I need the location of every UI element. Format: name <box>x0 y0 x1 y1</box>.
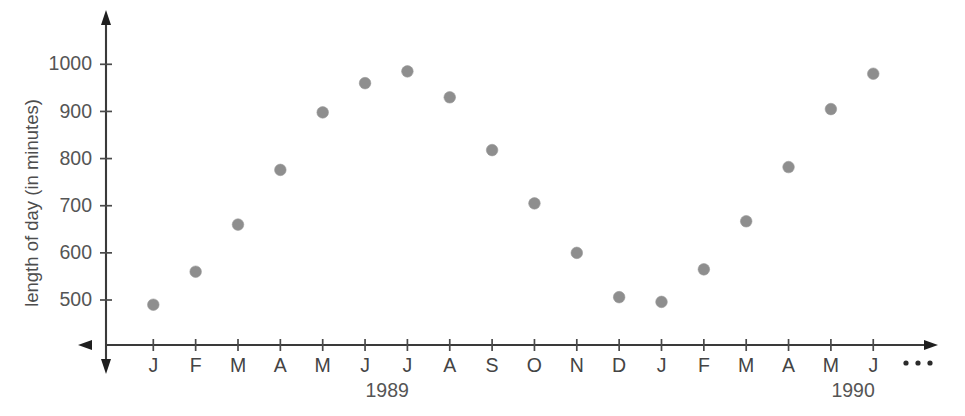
data-point <box>867 68 879 80</box>
ellipsis-dot-1 <box>903 360 908 365</box>
data-point <box>486 144 498 156</box>
y-tick-label-800: 800 <box>59 147 92 169</box>
x-tick-label-12: J <box>657 354 667 376</box>
scatter-plot-figure: 5006007008009001000 JFMAMJJASONDJFMAMJ 1… <box>0 0 965 416</box>
ellipsis-dot-3 <box>927 360 932 365</box>
data-point <box>740 215 752 227</box>
x-tick-label-6: J <box>403 354 413 376</box>
x-axis-right-arrow-icon <box>924 340 938 350</box>
data-point <box>613 291 625 303</box>
y-axis-up-arrow-icon <box>101 10 111 25</box>
continuation-ellipsis <box>903 360 932 365</box>
year-label-1989: 1989 <box>366 379 409 401</box>
x-tick-label-17: J <box>868 354 878 376</box>
data-point <box>275 164 287 176</box>
x-tick-label-0: J <box>148 354 158 376</box>
data-point <box>698 264 710 276</box>
x-tick-label-3: A <box>274 354 287 376</box>
y-tick-label-700: 700 <box>59 194 92 216</box>
data-point <box>359 77 371 89</box>
x-tick-label-16: M <box>823 354 839 376</box>
data-point <box>825 103 837 115</box>
x-tick-label-2: M <box>230 354 246 376</box>
plot-canvas: 5006007008009001000 JFMAMJJASONDJFMAMJ 1… <box>0 0 965 416</box>
y-tick-label-900: 900 <box>59 100 92 122</box>
data-point <box>444 91 456 103</box>
x-tick-label-10: N <box>570 354 584 376</box>
ellipsis-dot-2 <box>915 360 920 365</box>
x-tick-label-11: D <box>612 354 626 376</box>
data-point <box>317 107 329 119</box>
y-axis-down-arrow-icon <box>101 359 111 374</box>
data-point <box>148 299 160 311</box>
x-tick-label-14: M <box>738 354 754 376</box>
data-point <box>402 66 414 78</box>
x-tick-label-7: A <box>443 354 456 376</box>
y-axis-ticks: 5006007008009001000 <box>49 52 112 310</box>
x-tick-label-13: F <box>698 354 710 376</box>
y-axis-title: length of day (in minutes) <box>21 99 42 307</box>
year-label-1990: 1990 <box>831 379 875 401</box>
data-point <box>656 296 668 308</box>
x-tick-label-9: O <box>527 354 542 376</box>
y-tick-label-600: 600 <box>59 241 92 263</box>
data-point <box>529 198 541 210</box>
y-tick-label-500: 500 <box>59 288 92 310</box>
data-point <box>783 161 795 173</box>
x-tick-label-5: J <box>360 354 370 376</box>
x-tick-label-1: F <box>190 354 202 376</box>
data-point <box>232 219 244 231</box>
data-point <box>190 266 202 278</box>
x-tick-label-15: A <box>782 354 795 376</box>
data-points <box>148 66 880 311</box>
year-labels: 19891990 <box>366 379 875 401</box>
y-tick-label-1000: 1000 <box>49 52 93 74</box>
x-tick-label-4: M <box>315 354 331 376</box>
data-point <box>571 247 583 259</box>
x-tick-label-8: S <box>486 354 499 376</box>
x-axis-left-arrow-icon <box>78 340 92 350</box>
axes <box>78 10 938 374</box>
